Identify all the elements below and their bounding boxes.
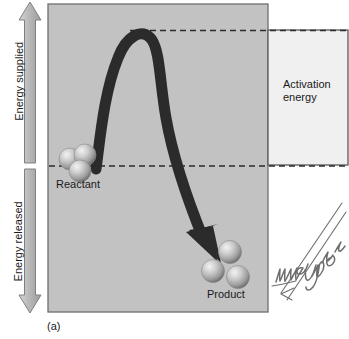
panel-label: (a) <box>47 320 60 333</box>
product-label: Product <box>207 288 245 301</box>
reactant-label: Reactant <box>56 178 100 191</box>
energy-supplied-label: Energy supplied <box>13 21 26 141</box>
energy-profile-figure: Energy supplied Energy released Activati… <box>0 0 349 339</box>
diagram-canvas <box>0 0 349 339</box>
activation-energy-label: Activation energy <box>283 78 331 103</box>
handwritten-annotation <box>272 203 346 300</box>
energy-released-label: Energy released <box>12 181 25 301</box>
